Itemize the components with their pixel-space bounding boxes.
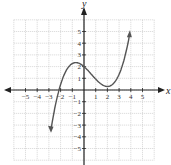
x-tick-label: −5 xyxy=(22,93,30,101)
x-tick-label: 3 xyxy=(117,93,121,101)
y-tick-label: −3 xyxy=(74,122,82,130)
y-tick-label: −5 xyxy=(74,145,82,153)
x-tick-label: −4 xyxy=(33,93,41,101)
y-tick-label: −2 xyxy=(74,110,82,118)
x-tick-label: −3 xyxy=(45,93,53,101)
curve xyxy=(51,35,129,129)
cubic-graph: xy−5−4−3−2−11234554321−1−2−3−4−5 xyxy=(0,0,171,165)
x-tick-label: 2 xyxy=(106,93,110,101)
x-axis-label: x xyxy=(165,85,171,96)
x-tick-label: 1 xyxy=(94,93,98,101)
y-tick-label: 4 xyxy=(78,40,82,48)
y-tick-label: −4 xyxy=(74,133,82,141)
y-tick-label: 1 xyxy=(78,75,82,83)
y-tick-label: 3 xyxy=(78,51,82,59)
x-axis-right-arrow-icon xyxy=(158,87,165,93)
curve-up-arrow-icon xyxy=(127,30,132,37)
x-tick-label: 5 xyxy=(141,93,145,101)
x-axis-left-arrow-icon xyxy=(4,87,11,93)
x-tick-label: 4 xyxy=(129,93,133,101)
y-axis-label: y xyxy=(81,0,87,9)
curve-down-arrow-icon xyxy=(48,126,54,133)
y-tick-label: −1 xyxy=(74,98,82,106)
y-tick-label: 5 xyxy=(78,28,82,36)
